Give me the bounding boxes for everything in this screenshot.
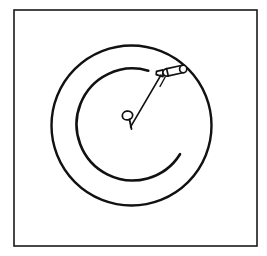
paper-background xyxy=(0,0,267,256)
line-drawing-svg xyxy=(0,0,267,256)
nozzle-end-cap xyxy=(180,65,187,73)
drawing-canvas xyxy=(0,0,267,256)
